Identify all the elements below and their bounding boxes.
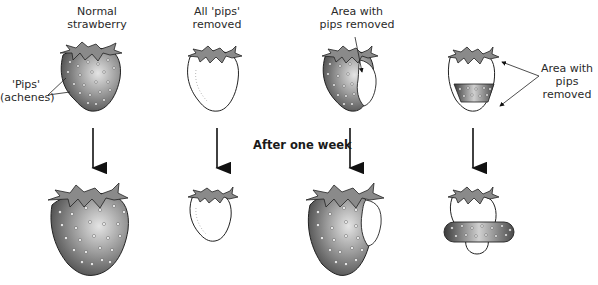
label-line: All 'pips' (182, 5, 252, 18)
strawberry-patch-removed-after (306, 183, 384, 275)
label-line: pips removed (532, 75, 598, 101)
label-line: Normal (62, 5, 132, 18)
label-line: removed (182, 18, 252, 31)
strawberry-normal-after (48, 183, 128, 275)
strawberry-band-after (444, 187, 514, 254)
strawberry-no-pips-before (188, 46, 242, 111)
strawberry-no-pips-after (188, 187, 238, 241)
label-line: Area with (532, 62, 598, 75)
strawberry-normal-before (48, 42, 122, 111)
label-after-one-week: After one week (253, 138, 352, 152)
label-line: (achenes) (0, 91, 52, 104)
label-line: 'Pips' (0, 78, 52, 91)
label-line: strawberry (62, 18, 132, 31)
label-line: Area with (317, 5, 397, 18)
label-area-pips-removed: Area with pips removed (317, 5, 397, 31)
strawberry-band-before (448, 47, 539, 111)
label-band-area-pips-removed: Area with pips removed (532, 62, 598, 101)
label-all-pips-removed: All 'pips' removed (182, 5, 252, 31)
label-pips-achenes: 'Pips' (achenes) (0, 78, 52, 104)
label-line: pips removed (317, 18, 397, 31)
strawberry-patch-removed-before (322, 37, 378, 111)
label-normal-strawberry: Normal strawberry (62, 5, 132, 31)
